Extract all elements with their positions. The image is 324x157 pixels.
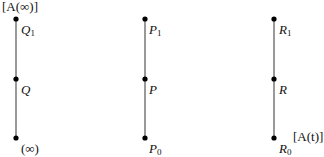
chain-middle	[142, 16, 147, 140]
label-p1: P1	[149, 23, 161, 38]
node-r	[271, 76, 276, 81]
chain-left	[13, 16, 18, 140]
node-p	[142, 76, 147, 81]
node-r0	[271, 135, 276, 140]
node-r1	[271, 16, 276, 21]
label-r0: R0	[279, 142, 291, 157]
node-q1	[13, 16, 18, 21]
label-r1: R1	[279, 23, 291, 38]
node-p1	[142, 16, 147, 21]
annotation-a-infinity: [A(∞)]	[2, 0, 38, 13]
label-q: Q	[21, 83, 30, 96]
node-p0	[142, 135, 147, 140]
node-q	[13, 76, 18, 81]
diagram-canvas	[0, 0, 324, 157]
label-q1: Q1	[21, 23, 35, 38]
label-p0: P0	[149, 142, 161, 157]
label-p: P	[149, 83, 157, 96]
label-r: R	[279, 83, 287, 96]
chain-right	[271, 16, 276, 140]
label-infinity: (∞)	[21, 142, 39, 155]
annotation-a-t: [A(t)]	[293, 130, 323, 143]
node-infinity	[13, 135, 18, 140]
